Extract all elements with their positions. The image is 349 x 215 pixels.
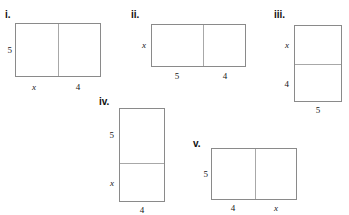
- figure-iii-horizontal-divider: [295, 64, 341, 65]
- figure-ii-vertical-divider: [203, 25, 204, 66]
- figure-i-segment-label-2: 4: [70, 83, 86, 92]
- figure-ii-side-label: x: [134, 41, 146, 50]
- figure-iii-side-label-2: 4: [277, 80, 289, 89]
- figure-ii-segment-label-1: 5: [169, 72, 185, 81]
- figure-ii-segment-label-2: 4: [217, 72, 233, 81]
- figure-i-vertical-divider: [58, 24, 59, 76]
- figure-iv-side-label-2: x: [102, 179, 114, 188]
- figure-v-side-label: 5: [196, 170, 208, 179]
- figure-iv-side-label-1: 5: [102, 131, 114, 140]
- figure-iii-numeral: iii.: [274, 10, 285, 20]
- figure-v-numeral: v.: [193, 139, 201, 149]
- figure-v-segment-label-2: x: [268, 204, 284, 213]
- figure-ii-numeral: ii.: [131, 10, 139, 20]
- figure-ii-rectangle: [151, 24, 246, 67]
- figure-v-vertical-divider: [255, 149, 256, 199]
- figure-iv-horizontal-divider: [120, 163, 164, 164]
- figure-iii-side-label-1: x: [277, 41, 289, 50]
- figure-v-rectangle: [211, 148, 297, 200]
- figure-iv-rectangle: [119, 108, 165, 202]
- figure-iv-bottom-label: 4: [134, 206, 150, 215]
- figure-iv-numeral: iv.: [99, 97, 109, 107]
- figure-i-numeral: i.: [5, 10, 11, 20]
- figure-i-segment-label-1: x: [26, 83, 42, 92]
- figure-iii-bottom-label: 5: [310, 106, 326, 115]
- figure-i-side-label: 5: [0, 46, 12, 55]
- figure-v-segment-label-1: 4: [225, 204, 241, 213]
